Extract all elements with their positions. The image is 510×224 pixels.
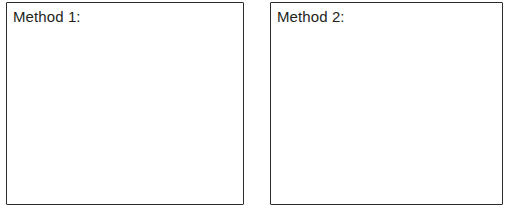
method-2-label: Method 2: [277,8,345,26]
worksheet-container: Method 1: Method 2: [0,0,510,224]
method-1-label: Method 1: [13,8,81,26]
method-1-answer-area[interactable] [7,29,243,204]
method-2-answer-area[interactable] [271,29,502,204]
method-2-box[interactable]: Method 2: [270,2,503,205]
method-1-box[interactable]: Method 1: [6,2,244,205]
